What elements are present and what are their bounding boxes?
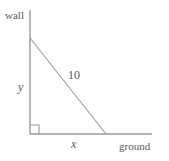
triangle-diagram-svg [0,0,169,161]
hypotenuse-line [30,38,106,134]
right-angle-marker-icon [30,125,39,134]
horizontal-leg-label: x [71,138,76,150]
hypotenuse-length-label: 10 [68,69,80,81]
geometry-figure: wall y 10 x ground [0,0,169,161]
ground-label: ground [119,141,150,152]
vertical-leg-label: y [18,81,23,93]
wall-label: wall [5,10,24,21]
